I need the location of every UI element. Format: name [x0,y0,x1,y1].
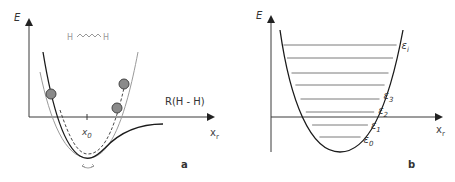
energy-level-label: εi [402,40,409,54]
panel-b-x-axis-label: xr [436,124,445,138]
atom-ball-upper-right [119,79,129,89]
energy-level-label: ε0 [364,134,374,148]
panel-b: E xr ε0ε1ε2ε3εi b [256,10,445,170]
energy-levels [283,45,396,137]
atom-ball-left [46,89,56,99]
atom-ball-lower-right [112,103,122,113]
curve-label: R(H - H) [165,96,205,107]
equilibrium-label: x0 [81,127,92,140]
bond-spring-icon [77,34,101,37]
panel-a-label: a [181,159,188,170]
hydrogen-molecule: H H [67,33,109,42]
panel-b-label: b [408,159,415,170]
panel-b-y-axis-label: E [256,10,263,21]
energy-level-label: ε1 [371,120,381,134]
panel-a-y-axis-label: E [14,12,21,23]
figure: E xr H H x0 R(H - H) a E xr [0,0,455,182]
panel-a-x-axis-label: xr [210,127,219,141]
molecule-atom-right: H [103,33,109,42]
panel-a: E xr H H x0 R(H - H) a [14,12,219,170]
morse-potential-curve [43,52,163,158]
harmonic-potential-curve [40,52,138,158]
molecule-atom-left: H [67,33,73,42]
